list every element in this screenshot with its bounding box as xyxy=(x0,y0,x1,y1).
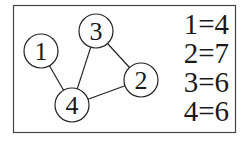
node-label: 3 xyxy=(90,17,103,46)
node-label: 1 xyxy=(35,37,48,66)
edge-1-4 xyxy=(49,66,63,91)
edge-3-4 xyxy=(77,47,91,89)
edge-3-2 xyxy=(107,44,129,68)
legend-item: 1=4 xyxy=(184,8,230,40)
edge-4-2 xyxy=(88,86,125,99)
legend-group: 1=42=73=64=6 xyxy=(184,8,230,127)
legend-item: 4=6 xyxy=(184,95,229,127)
graph-diagram: 1234 1=42=73=64=6 xyxy=(0,0,247,144)
node-label: 4 xyxy=(66,91,79,120)
node-4: 4 xyxy=(55,88,89,122)
node-3: 3 xyxy=(79,14,113,48)
legend-item: 2=7 xyxy=(184,37,229,69)
edges-group xyxy=(49,44,129,100)
node-label: 2 xyxy=(135,66,148,95)
node-2: 2 xyxy=(124,63,158,97)
nodes-group: 1234 xyxy=(24,14,158,122)
node-1: 1 xyxy=(24,34,58,68)
legend-item: 3=6 xyxy=(184,66,229,98)
